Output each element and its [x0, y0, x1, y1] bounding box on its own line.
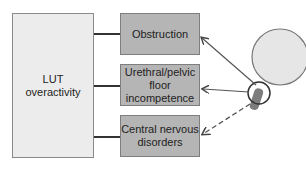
bladder-icon	[252, 29, 306, 85]
cause-label: Central nervous disorders	[121, 123, 199, 149]
cause-label: Urethral/pelvic floor incompetence	[122, 66, 198, 105]
arrow-to-obstruction	[202, 38, 256, 85]
lut-overactivity-box: LUT overactivity	[12, 13, 94, 158]
lut-overactivity-label: LUT overactivity	[23, 73, 83, 99]
cause-box-obstruction: Obstruction	[120, 13, 200, 55]
urethra-icon	[249, 87, 264, 111]
cause-label: Obstruction	[132, 28, 188, 41]
cause-box-urethral-pelvic-floor: Urethral/pelvic floor incompetence	[120, 64, 200, 106]
arrow-to-cns	[203, 104, 250, 134]
cause-box-central-nervous: Central nervous disorders	[120, 115, 200, 157]
arrow-to-urethral	[203, 89, 249, 92]
